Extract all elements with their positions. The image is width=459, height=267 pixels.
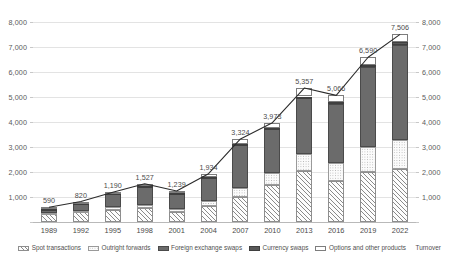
legend-swatch-spot-icon — [18, 246, 29, 251]
turnover-value-label: 6,590 — [350, 46, 386, 55]
x-axis-tick-label: 1992 — [63, 226, 99, 235]
turnover-value-label: 1,527 — [127, 173, 163, 182]
x-axis-tick-label: 2013 — [286, 226, 322, 235]
legend-swatch-fxswap-icon — [158, 246, 169, 251]
x-axis-tick-label: 2004 — [191, 226, 227, 235]
x-axis-tick-label: 2010 — [254, 226, 290, 235]
legend-label: Outright forwards — [102, 245, 151, 251]
x-axis-tick-label: 2016 — [318, 226, 354, 235]
x-axis-tick-label: 1995 — [95, 226, 131, 235]
turnover-value-label: 3,973 — [254, 112, 290, 121]
turnover-value-label: 5,066 — [318, 84, 354, 93]
x-axis-tick-label: 1989 — [31, 226, 67, 235]
legend-label: Spot transactions — [32, 245, 81, 251]
turnover-value-label: 7,506 — [382, 23, 418, 32]
legend-label: Options and other products — [329, 245, 406, 251]
legend-label: Foreign exchange swaps — [171, 245, 242, 251]
legend-item-ccyswap[interactable]: Currency swaps — [249, 245, 308, 251]
x-axis-tick-label: 2001 — [159, 226, 195, 235]
turnover-value-label: 820 — [63, 191, 99, 200]
legend-item-fxswap[interactable]: Foreign exchange swaps — [158, 245, 243, 251]
x-axis-tick-label: 2019 — [350, 226, 386, 235]
turnover-value-label: 3,324 — [222, 128, 258, 137]
legend-item-spot[interactable]: Spot transactions — [18, 245, 81, 251]
legend-item-line[interactable]: Turnover — [413, 245, 441, 251]
legend-label: Turnover — [416, 245, 441, 251]
legend-swatch-forward-icon — [88, 246, 99, 251]
x-axis-tick-label: 1998 — [127, 226, 163, 235]
turnover-value-label: 1,239 — [159, 180, 195, 189]
chart-container: 1,0002,0003,0004,0005,0006,0007,0008,000… — [0, 0, 459, 267]
turnover-value-label: 1,934 — [191, 163, 227, 172]
turnover-value-label: 1,190 — [95, 181, 131, 190]
legend-label: Currency swaps — [263, 245, 309, 251]
turnover-value-label: 590 — [31, 196, 67, 205]
legend-item-options[interactable]: Options and other products — [315, 245, 406, 251]
x-axis-tick-label: 2007 — [222, 226, 258, 235]
legend-swatch-ccyswap-icon — [249, 246, 260, 251]
x-axis-tick-label: 2022 — [382, 226, 418, 235]
legend-item-forward[interactable]: Outright forwards — [88, 245, 151, 251]
turnover-value-label: 5,357 — [286, 77, 322, 86]
legend-swatch-options-icon — [315, 246, 326, 251]
chart-legend: Spot transactionsOutright forwardsForeig… — [0, 245, 459, 251]
